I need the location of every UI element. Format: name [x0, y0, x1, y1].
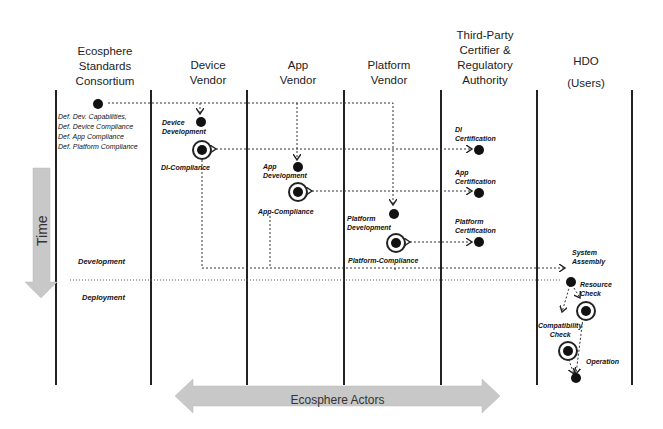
consortium-definitions-label: Def. Dev. Capabilities, Def. Device Comp… [58, 112, 154, 152]
time-axis-label: Time [34, 215, 50, 246]
phase-deployment-label: Deployment [82, 293, 125, 302]
compatibility-check-node [558, 341, 578, 361]
label-line: Development [263, 171, 307, 180]
app-compliance-label: App-Compliance [258, 207, 314, 216]
compatibility-check-label: Compatibility Check [538, 321, 582, 339]
device-development-node [196, 117, 206, 127]
label-line: Resource [580, 280, 612, 289]
label-line: Platform [455, 217, 496, 226]
label-line: Certification [455, 226, 496, 235]
app-development-node [293, 162, 303, 172]
label-line: Assembly [572, 257, 605, 266]
operation-node [571, 373, 581, 383]
app-certification-node [474, 188, 484, 198]
platform-compliance-label: Platform-Compliance [348, 256, 418, 265]
connector-lines [0, 0, 663, 429]
label-line: App [455, 168, 496, 177]
label-line: Development [162, 127, 206, 136]
label-line: Certification [455, 134, 496, 143]
label-line: System [572, 248, 605, 257]
app-certification-label: App Certification [455, 168, 496, 186]
di-compliance-node [192, 140, 212, 160]
def-line: Def. Dev. Capabilities, [58, 112, 154, 122]
def-line: Def. Device Compliance [58, 122, 154, 132]
resource-check-label: Resource Check [580, 280, 612, 298]
di-certification-label: DI Certification [455, 125, 496, 143]
resource-check-node [576, 301, 596, 321]
system-assembly-node [566, 277, 576, 287]
def-line: Def. App Compliance [58, 132, 154, 142]
platform-certification-label: Platform Certification [455, 217, 496, 235]
di-certification-node [474, 145, 484, 155]
platform-certification-node [474, 237, 484, 247]
label-line: Certification [455, 177, 496, 186]
app-compliance-node [288, 182, 308, 202]
platform-compliance-node [386, 233, 406, 253]
label-line: Development [347, 223, 391, 232]
system-assembly-label: System Assembly [572, 248, 605, 266]
label-line: Compatibility [538, 321, 582, 330]
label-line: Check [580, 289, 612, 298]
platform-development-node [389, 209, 399, 219]
platform-development-label: Platform Development [347, 214, 391, 232]
def-line: Def. Platform Compliance [58, 142, 154, 152]
label-line: DI [455, 125, 496, 134]
phase-development-label: Development [78, 257, 125, 266]
label-line: Platform [347, 214, 391, 223]
di-compliance-label: DI-Compliance [161, 163, 210, 172]
operation-label: Operation [586, 357, 619, 366]
label-line: Check [538, 330, 582, 339]
consortium-definitions-node [93, 99, 103, 109]
actors-axis-label: Ecosphere Actors [0, 393, 663, 407]
